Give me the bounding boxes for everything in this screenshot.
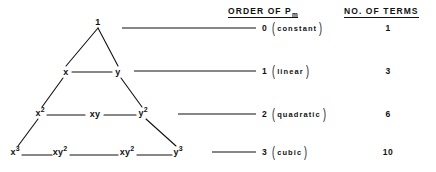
column-header-order-subscript: m [292,11,298,18]
monomial-exponent: 2 [63,145,67,152]
monomial-base: xy [53,147,64,157]
order-name-group: (linear) [271,65,310,77]
column-header-terms-text: NO. OF TERMS [344,6,419,16]
triangle-edge [98,28,118,66]
column-header-order-text: ORDER OF P [228,6,292,16]
order-number: 2 [262,109,267,119]
monomial-base: x [63,67,68,77]
paren-open: ( [272,22,275,34]
monomial-exponent: 3 [179,145,183,152]
paren-open: ( [272,108,275,120]
paren-close: ) [323,108,326,120]
order-name: constant [276,24,318,33]
order-name-group: (quadratic) [271,108,327,120]
order-cell: 1(linear) [262,65,310,77]
terms-count-cell: 1 [385,23,390,33]
order-name: linear [276,67,305,76]
triangle-edge-group [18,28,176,155]
row-connector-group [122,28,256,152]
triangle-edge [42,78,63,107]
monomial-node: y [115,68,120,77]
monomial-node: x2 [35,109,44,118]
monomial-exponent: 2 [144,106,148,113]
paren-close: ) [319,22,322,34]
triangle-edge [121,78,142,107]
monomial-base: y [115,67,120,77]
monomial-base: xy [90,109,101,119]
order-number: 3 [262,147,267,157]
order-name: cubic [276,148,303,157]
order-name: quadratic [276,110,322,119]
monomial-exponent: 3 [16,145,20,152]
monomial-exponent: 2 [41,106,45,113]
order-cell: 3(cubic) [262,146,308,158]
terms-count-cell: 10 [383,147,393,157]
terms-count-cell: 6 [385,109,390,119]
order-number: 0 [262,23,267,33]
pascal-triangle-figure: 1xyx2xyy2x3xy2xy2y3 ORDER OF Pm NO. OF T… [0,0,436,172]
order-number: 1 [262,66,267,76]
triangle-edge [66,28,98,66]
column-header-order: ORDER OF Pm [228,6,298,18]
monomial-node: xy2 [53,148,68,157]
monomial-exponent: 2 [130,145,134,152]
order-name-group: (cubic) [271,146,308,158]
monomial-node: x [63,68,68,77]
column-header-terms: NO. OF TERMS [344,6,419,18]
triangle-edge [18,119,38,146]
paren-close: ) [306,65,309,77]
order-cell: 2(quadratic) [262,108,327,120]
paren-open: ( [272,146,275,158]
order-cell: 0(constant) [262,22,323,34]
monomial-node: y2 [138,109,147,118]
monomial-node: xy2 [120,148,135,157]
paren-close: ) [304,146,307,158]
monomial-node: xy [90,110,101,119]
monomial-node: y3 [173,148,182,157]
triangle-edge [146,119,176,146]
monomial-base: 1 [95,17,100,27]
terms-count-cell: 3 [385,66,390,76]
monomial-node: x3 [10,148,19,157]
paren-open: ( [272,65,275,77]
monomial-base: xy [120,147,131,157]
monomial-node: 1 [95,18,100,27]
order-name-group: (constant) [271,22,323,34]
